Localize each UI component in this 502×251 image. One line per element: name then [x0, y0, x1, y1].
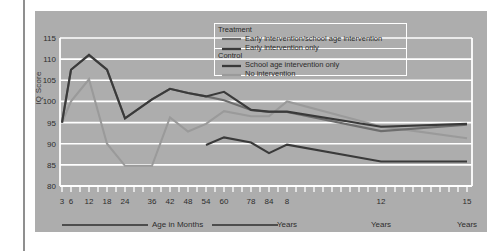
y-tick-110: 110	[36, 55, 56, 64]
x-sublabel-years-12: Years	[367, 220, 395, 229]
legend-label-early-intervention-only: Early intervention only	[245, 43, 319, 52]
x-sublabel-years-8: Years	[273, 220, 301, 229]
figure-container: IQ Score 115 110 105 100 95 90 85 80 3 6…	[0, 0, 502, 251]
y-tick-85: 85	[36, 161, 56, 170]
y-tick-95: 95	[36, 119, 56, 128]
legend-label-early-and-school-age: Early intervention/school age interventi…	[245, 34, 382, 43]
y-tick-80: 80	[36, 182, 56, 191]
x-sublabel-years-15: Years	[453, 220, 481, 229]
x-tick-12-years: 12	[373, 197, 389, 206]
legend-label-no-intervention: No intervention	[245, 69, 295, 78]
x-tick-54: 54	[198, 197, 214, 206]
x-axis-label-age-in-months: Age in Months	[152, 220, 203, 229]
x-tick-78: 78	[243, 197, 259, 206]
legend-label-school-age-only: School age intervention only	[245, 60, 339, 69]
x-tick-60: 60	[216, 197, 232, 206]
legend-swatch-no-intervention	[222, 73, 241, 77]
legend-group-title-treatment: Treatment	[218, 25, 252, 34]
y-tick-115: 115	[36, 34, 56, 43]
x-tick-12: 12	[81, 197, 97, 206]
x-tick-24: 24	[117, 197, 133, 206]
x-tick-6: 6	[64, 197, 78, 206]
x-tick-84: 84	[261, 197, 277, 206]
y-tick-105: 105	[36, 76, 56, 85]
x-tick-18: 18	[99, 197, 115, 206]
x-tick-8-years: 8	[279, 197, 295, 206]
x-tick-42: 42	[162, 197, 178, 206]
x-tick-15-years: 15	[459, 197, 475, 206]
legend-swatch-early-and-school-age	[222, 37, 241, 41]
y-tick-90: 90	[36, 140, 56, 149]
legend-swatch-school-age-only	[222, 64, 241, 68]
legend-group-title-control: Control	[218, 51, 242, 60]
x-tick-48: 48	[180, 197, 196, 206]
y-axis-label: IQ Score	[34, 58, 48, 118]
y-tick-100: 100	[36, 97, 56, 106]
x-tick-36: 36	[144, 197, 160, 206]
series-line-school-age-only	[206, 137, 467, 161]
